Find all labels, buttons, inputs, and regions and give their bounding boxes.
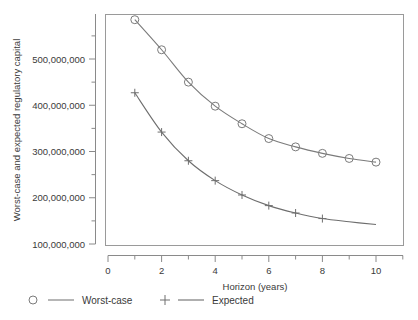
data-point-marker xyxy=(211,177,219,185)
data-point-marker xyxy=(265,202,273,210)
y-tick-label: 300,000,000 xyxy=(32,146,85,157)
chart-legend: Worst-case Expected xyxy=(29,295,254,306)
series-markers-expected xyxy=(131,89,327,223)
series-line-expected xyxy=(135,93,376,225)
x-tick-label: 0 xyxy=(105,265,110,276)
data-point-marker xyxy=(131,89,139,97)
plot-area-border xyxy=(106,15,404,246)
x-axis-title: Horizon (years) xyxy=(223,281,288,292)
legend-circle-icon xyxy=(29,296,37,304)
chart-figure: 100,000,000 200,000,000 300,000,000 400,… xyxy=(0,0,418,320)
x-axis: 0 2 4 6 8 10 Horizon (years) xyxy=(105,256,403,293)
y-axis-title: Worst-case and expected regulatory capit… xyxy=(11,39,22,222)
data-point-marker xyxy=(292,209,300,217)
series-markers-worst-case xyxy=(131,16,380,166)
legend-label-expected: Expected xyxy=(212,295,254,306)
x-tick-label: 6 xyxy=(266,265,271,276)
y-axis: 100,000,000 200,000,000 300,000,000 400,… xyxy=(11,14,96,250)
chart-canvas: 100,000,000 200,000,000 300,000,000 400,… xyxy=(0,0,418,320)
legend-plus-icon xyxy=(160,295,170,305)
y-tick-label: 500,000,000 xyxy=(32,54,85,65)
x-tick-label: 10 xyxy=(371,265,382,276)
data-point-marker xyxy=(318,215,326,223)
y-tick-label: 200,000,000 xyxy=(32,192,85,203)
series-worst-case xyxy=(131,16,380,166)
legend-label-worst-case: Worst-case xyxy=(82,295,133,306)
y-tick-label: 400,000,000 xyxy=(32,100,85,111)
data-point-marker xyxy=(238,191,246,199)
series-line-worst-case xyxy=(135,20,376,162)
x-tick-label: 8 xyxy=(320,265,325,276)
y-tick-label: 100,000,000 xyxy=(32,239,85,250)
x-tick-label: 4 xyxy=(213,265,218,276)
x-tick-label: 2 xyxy=(159,265,164,276)
